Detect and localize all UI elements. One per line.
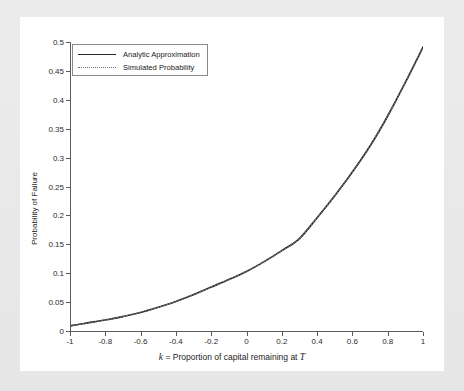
- solid-line-swatch-icon: [78, 54, 116, 55]
- y-tick-label: 0.45: [2, 66, 64, 75]
- data-curves: [70, 41, 423, 332]
- x-tick-label: 0.6: [347, 337, 358, 346]
- figure-frame: -1-0.8-0.6-0.4-0.200.20.40.60.81 00.050.…: [0, 0, 464, 391]
- x-tick-mark: [388, 332, 389, 336]
- x-tick-label: -1: [66, 337, 73, 346]
- x-axis-label: k = Proportion of capital remaining at T: [0, 352, 464, 362]
- x-tick-mark: [352, 332, 353, 336]
- x-tick-label: 0.2: [276, 337, 287, 346]
- x-tick-mark: [282, 332, 283, 336]
- x-tick-mark: [317, 332, 318, 336]
- y-tick-label: 0: [2, 327, 64, 336]
- legend-entry-analytic: Analytic Approximation: [78, 48, 202, 61]
- x-tick-label: 0: [244, 337, 248, 346]
- legend-label-simulated: Simulated Probability: [123, 63, 194, 72]
- curve-simulated-probability: [70, 47, 423, 326]
- x-tick-label: -0.6: [134, 337, 148, 346]
- y-axis-label: Probability of Failure: [30, 119, 39, 299]
- x-tick-mark: [176, 332, 177, 336]
- x-tick-label: 1: [421, 337, 425, 346]
- x-tick-label: 0.4: [312, 337, 323, 346]
- curve-analytic-approximation: [70, 47, 423, 326]
- x-tick-mark: [141, 332, 142, 336]
- x-tick-mark: [105, 332, 106, 336]
- x-tick-label: 0.8: [382, 337, 393, 346]
- x-tick-mark: [211, 332, 212, 336]
- y-tick-label: 0.05: [2, 298, 64, 307]
- chart-canvas: -1-0.8-0.6-0.4-0.200.20.40.60.81 00.050.…: [20, 17, 444, 371]
- x-axis-label-middle: = Proportion of capital remaining at: [163, 352, 300, 362]
- y-tick-label: 0.5: [2, 38, 64, 47]
- x-tick-label: -0.2: [204, 337, 218, 346]
- x-tick-mark: [247, 332, 248, 336]
- x-tick-label: -0.4: [169, 337, 183, 346]
- legend-entry-simulated: Simulated Probability: [78, 61, 202, 74]
- x-tick-mark: [423, 332, 424, 336]
- x-axis-label-symbol-t: T: [300, 352, 305, 362]
- chart-legend: Analytic Approximation Simulated Probabi…: [72, 44, 208, 76]
- legend-label-analytic: Analytic Approximation: [123, 50, 200, 59]
- y-tick-label: 0.4: [2, 95, 64, 104]
- dotted-line-swatch-icon: [78, 67, 116, 68]
- x-tick-mark: [70, 332, 71, 336]
- x-tick-label: -0.8: [98, 337, 112, 346]
